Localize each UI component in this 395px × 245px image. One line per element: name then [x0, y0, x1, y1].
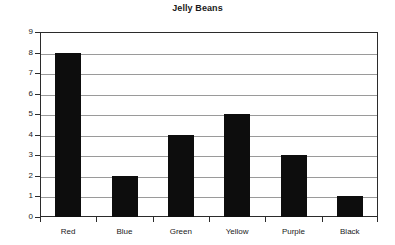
- y-tick-label: 8: [29, 47, 33, 58]
- bars-group: [40, 32, 378, 217]
- x-tick-mark: [209, 217, 210, 222]
- y-tick: 4: [0, 135, 40, 136]
- y-tick: 3: [0, 155, 40, 156]
- y-tick-label: 0: [29, 211, 33, 222]
- y-tick-label: 7: [29, 67, 33, 78]
- x-axis-label-yellow: Yellow: [209, 226, 265, 237]
- y-tick: 9: [0, 32, 40, 33]
- x-tick-mark: [377, 217, 378, 222]
- y-tick: 6: [0, 94, 40, 95]
- x-tick-mark: [153, 217, 154, 222]
- chart-title: Jelly Beans: [0, 3, 395, 13]
- bar-purple: [281, 155, 307, 217]
- x-tick-mark: [96, 217, 97, 222]
- x-axis: RedBlueGreenYellowPurpleBlack: [40, 217, 378, 243]
- y-tick: 7: [0, 73, 40, 74]
- y-tick-label: 6: [29, 88, 33, 99]
- bar-green: [168, 135, 194, 217]
- y-tick-label: 2: [29, 170, 33, 181]
- y-tick-label: 5: [29, 108, 33, 119]
- x-tick-mark: [40, 217, 41, 222]
- y-tick: 8: [0, 53, 40, 54]
- y-tick: 0: [0, 217, 40, 218]
- x-axis-label-green: Green: [153, 226, 209, 237]
- bar-red: [55, 53, 81, 217]
- x-tick-mark: [265, 217, 266, 222]
- y-tick-label: 3: [29, 149, 33, 160]
- y-tick: 2: [0, 176, 40, 177]
- bar-black: [337, 196, 363, 217]
- x-axis-label-purple: Purple: [265, 226, 321, 237]
- bar-chart: Jelly Beans Count 0123456789 RedBlueGree…: [0, 0, 395, 245]
- y-tick: 5: [0, 114, 40, 115]
- bar-yellow: [224, 114, 250, 217]
- bar-blue: [112, 176, 138, 217]
- x-tick-mark: [322, 217, 323, 222]
- y-tick-label: 4: [29, 129, 33, 140]
- x-axis-label-blue: Blue: [96, 226, 152, 237]
- y-tick: 1: [0, 196, 40, 197]
- x-axis-label-red: Red: [40, 226, 96, 237]
- x-axis-label-black: Black: [322, 226, 378, 237]
- y-tick-label: 1: [29, 190, 33, 201]
- y-axis-ticks: 0123456789: [0, 32, 40, 217]
- y-tick-label: 9: [29, 26, 33, 37]
